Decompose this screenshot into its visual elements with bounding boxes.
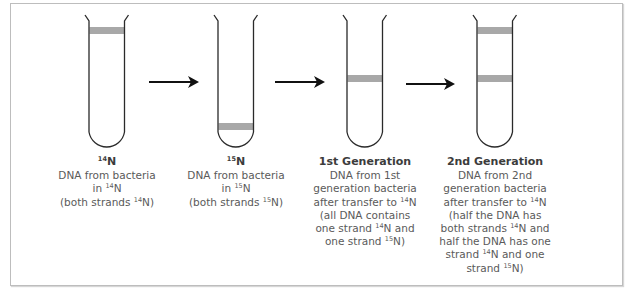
caption-line: DNA from bacteria xyxy=(47,169,167,182)
test-tube-15n xyxy=(214,15,258,147)
caption-1st-generation: 1st Generation DNA from 1st generation b… xyxy=(304,155,426,248)
caption-line: after transfer to 14N xyxy=(430,196,560,209)
caption-2nd-generation: 2nd Generation DNA from 2nd generation b… xyxy=(430,155,560,275)
caption-line: DNA from 1st xyxy=(304,169,426,182)
test-tube-14n xyxy=(85,15,129,147)
caption-line: DNA from bacteria xyxy=(176,169,296,182)
dna-band-light xyxy=(478,27,513,34)
caption-line: strand 14N and one xyxy=(430,248,560,261)
caption-line: generation bacteria xyxy=(304,182,426,195)
arrow-icon xyxy=(275,76,325,88)
caption-line: (half the DNA has xyxy=(430,209,560,222)
caption-line: in 15N xyxy=(176,182,296,195)
arrow-icon xyxy=(406,78,455,90)
test-tube-1st-generation xyxy=(343,15,387,147)
caption-line: (both strands 14N) xyxy=(47,196,167,209)
caption-15n: 15N DNA from bacteria in 15N (both stran… xyxy=(176,155,296,209)
caption-title: 14N xyxy=(47,155,167,168)
caption-line: (all DNA contains xyxy=(304,209,426,222)
dna-band-light xyxy=(90,27,125,34)
dna-band-heavy xyxy=(219,123,254,130)
arrow-icon xyxy=(149,76,199,88)
caption-line: one strand 15N) xyxy=(304,235,426,248)
caption-line: one strand 14N and xyxy=(304,222,426,235)
caption-line: (both strands 15N) xyxy=(176,196,296,209)
caption-14n: 14N DNA from bacteria in 14N (both stran… xyxy=(47,155,167,209)
caption-title: 2nd Generation xyxy=(430,155,560,168)
caption-line: generation bacteria xyxy=(430,182,560,195)
dna-band-hybrid xyxy=(348,75,383,82)
caption-line: after transfer to 14N xyxy=(304,196,426,209)
caption-line: half the DNA has one xyxy=(430,235,560,248)
caption-line: strand 15N) xyxy=(430,262,560,275)
caption-title: 1st Generation xyxy=(304,155,426,168)
caption-line: DNA from 2nd xyxy=(430,169,560,182)
caption-title: 15N xyxy=(176,155,296,168)
caption-line: in 14N xyxy=(47,182,167,195)
test-tube-2nd-generation xyxy=(473,15,517,147)
dna-band-hybrid xyxy=(478,75,513,82)
caption-line: both strands 14N and xyxy=(430,222,560,235)
